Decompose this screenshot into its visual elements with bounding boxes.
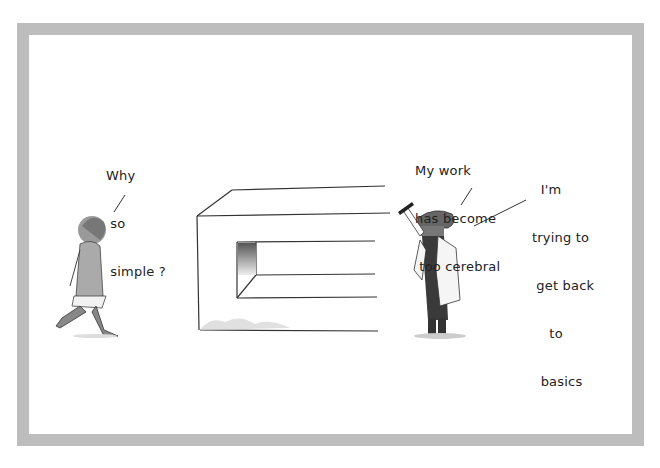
sculpture-shadow — [238, 243, 256, 275]
artist-speech-right: I'm trying to get back to basics — [532, 150, 594, 406]
speech-line: has become — [415, 211, 500, 227]
speech-line: I'm — [532, 182, 594, 198]
woman-speech-bubble: Why so simple ? — [106, 136, 166, 296]
speech-line: Why — [106, 168, 166, 184]
speech-line: to — [532, 326, 594, 342]
sculpture-block — [197, 186, 390, 331]
speech-line: so — [106, 216, 166, 232]
speech-line: simple ? — [106, 264, 166, 280]
speech-line: basics — [532, 374, 594, 390]
speech-line: trying to — [532, 230, 594, 246]
speech-line: too cerebral — [415, 259, 500, 275]
artist-speech-left: My work has become too cerebral — [415, 131, 500, 291]
speech-line: get back — [532, 278, 594, 294]
speech-line: My work — [415, 163, 500, 179]
ground-shade — [200, 318, 290, 330]
